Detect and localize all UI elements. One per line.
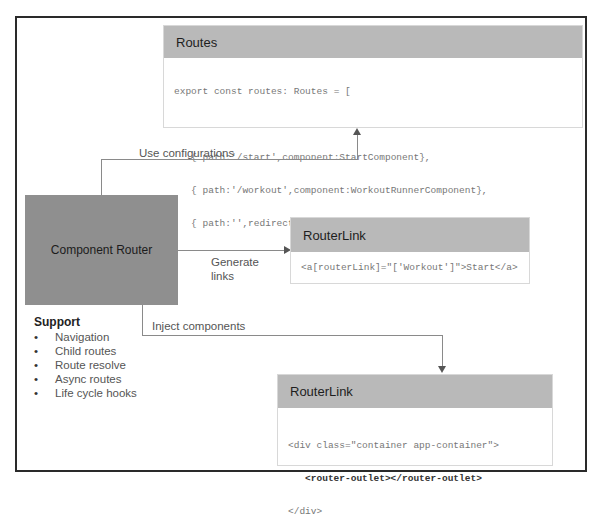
- router-link-box: RouterLink <a[routerLink]="['Workout']">…: [290, 217, 530, 284]
- support-list: Support Navigation Child routes Route re…: [34, 315, 137, 400]
- router-link-code: <a[routerLink]="['Workout']">Start</a>: [291, 252, 529, 283]
- connector-use-config-vertical: [101, 159, 102, 195]
- generate-label-line2: links: [211, 269, 259, 283]
- code-line: <div class="container app-container">: [288, 440, 542, 451]
- code-line: </div>: [288, 506, 542, 517]
- code-line: export const routes: Routes = [: [174, 86, 572, 97]
- router-outlet-tag: <router-outlet></router-outlet>: [288, 473, 482, 484]
- code-line: <router-outlet></router-outlet>: [288, 473, 542, 484]
- generate-label-line1: Generate: [211, 255, 259, 269]
- arrow-up-icon: [353, 128, 361, 135]
- router-outlet-code: <div class="container app-container"> <r…: [278, 408, 552, 518]
- use-configurations-label: Use configurations: [139, 146, 234, 160]
- connector-inject-down: [442, 335, 443, 367]
- support-item: Life cycle hooks: [34, 386, 137, 400]
- support-item: Navigation: [34, 330, 137, 344]
- inject-components-label: Inject components: [152, 319, 245, 333]
- generate-links-label: Generate links: [211, 255, 259, 283]
- support-item: Child routes: [34, 344, 137, 358]
- connector-inject-vertical: [142, 305, 143, 336]
- arrow-down-icon: [438, 366, 446, 373]
- support-item: Route resolve: [34, 358, 137, 372]
- support-item: Async routes: [34, 372, 137, 386]
- connector-use-config-up: [357, 134, 358, 160]
- routes-box: Routes export const routes: Routes = [ {…: [163, 25, 583, 128]
- component-router-label: Component Router: [51, 243, 152, 257]
- code-line: { path:'/workout',component:WorkoutRunne…: [174, 185, 572, 196]
- connector-generate-links: [178, 250, 284, 251]
- component-router-box: Component Router: [25, 195, 178, 305]
- code-line: [174, 119, 572, 130]
- support-title: Support: [34, 315, 137, 329]
- router-outlet-box-title: RouterLink: [278, 375, 552, 408]
- router-outlet-box: RouterLink <div class="container app-con…: [277, 374, 553, 466]
- router-link-box-title: RouterLink: [291, 218, 529, 252]
- connector-inject-horizontal: [142, 335, 443, 336]
- routes-box-title: Routes: [164, 26, 582, 58]
